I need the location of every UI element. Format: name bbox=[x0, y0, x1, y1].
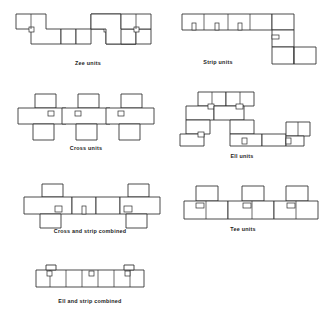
diagram-page: Zee units Strip units bbox=[0, 0, 332, 326]
tee-units-drawing bbox=[184, 186, 324, 226]
figure-tee-units bbox=[184, 186, 324, 226]
caption-cross-units: Cross units bbox=[70, 145, 102, 151]
zee-units-drawing bbox=[16, 14, 156, 58]
caption-strip-units: Strip units bbox=[203, 59, 232, 65]
caption-ell-units: Ell units bbox=[230, 153, 253, 159]
cross-units-drawing bbox=[18, 94, 160, 142]
cross-and-strip-drawing bbox=[24, 184, 160, 230]
figure-cross-and-strip-combined bbox=[24, 184, 160, 230]
caption-tee-units: Tee units bbox=[230, 226, 256, 232]
figure-ell-units bbox=[186, 92, 326, 148]
ell-units-drawing bbox=[186, 92, 326, 148]
ell-and-strip-drawing bbox=[36, 265, 146, 291]
caption-ell-and-strip-combined: Ell and strip combined bbox=[58, 298, 121, 304]
figure-cross-units bbox=[18, 94, 160, 142]
figure-zee-units bbox=[16, 14, 156, 58]
figure-ell-and-strip-combined bbox=[36, 265, 146, 291]
caption-cross-and-strip-combined: Cross and strip combined bbox=[54, 228, 127, 234]
caption-zee-units: Zee units bbox=[75, 60, 101, 66]
